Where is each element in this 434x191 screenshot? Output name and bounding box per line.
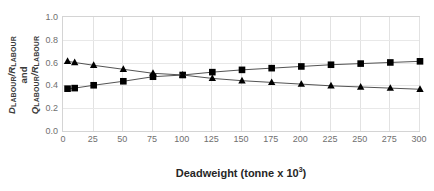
y-axis-tick-label: 1.0 — [34, 12, 58, 22]
data-point-triangle — [416, 85, 423, 92]
x-axis-tick-label: 100 — [174, 134, 189, 144]
x-axis-tick-label: 25 — [88, 134, 98, 144]
data-point-square — [268, 65, 275, 72]
x-axis-tick-label: 150 — [233, 134, 248, 144]
y-axis-label-sub-2: LABOUR — [10, 36, 17, 67]
x-axis-tick-label: 75 — [147, 134, 157, 144]
data-point-square — [64, 85, 71, 92]
series-svg — [63, 17, 421, 133]
y-axis-label-D: D — [6, 107, 17, 114]
y-axis-label-line-1: DLABOUR/RLABOUR — [6, 36, 18, 114]
data-point-square — [357, 60, 364, 67]
x-axis-tick-label: 200 — [293, 134, 308, 144]
data-point-triangle — [298, 80, 305, 87]
x-axis-tick-label: 0 — [60, 134, 65, 144]
series-line — [68, 61, 420, 89]
y-axis-ticks: 0.00.20.40.60.81.0 — [22, 0, 58, 191]
data-point-square — [239, 67, 246, 74]
y-axis-tick-label: 0.4 — [34, 80, 58, 90]
x-axis-tick-label: 275 — [382, 134, 397, 144]
y-axis-tick-label: 0.0 — [34, 126, 58, 136]
x-axis-tick-label: 300 — [411, 134, 426, 144]
y-axis-label-R1: R — [6, 67, 17, 74]
x-axis-tick-label: 125 — [204, 134, 219, 144]
data-point-triangle — [268, 78, 275, 85]
y-axis-tick-label: 0.6 — [34, 58, 58, 68]
data-point-square — [328, 61, 335, 68]
data-point-square — [298, 63, 305, 70]
data-point-triangle — [64, 57, 71, 64]
y-axis-tick-label: 0.8 — [34, 35, 58, 45]
x-axis-tick-label: 250 — [352, 134, 367, 144]
x-axis-tick-label: 175 — [263, 134, 278, 144]
data-point-square — [90, 82, 97, 89]
series-line — [68, 61, 420, 88]
data-point-square — [71, 85, 78, 92]
data-point-square — [417, 58, 424, 65]
x-axis-label-close: ) — [303, 167, 307, 179]
data-point-triangle — [357, 83, 364, 90]
y-axis-tick-label: 0.2 — [34, 103, 58, 113]
y-axis-label-sub-1: LABOUR — [10, 76, 17, 107]
x-axis-tick-label: 225 — [322, 134, 337, 144]
x-axis-label-text: Deadweight (tonne x 10 — [176, 167, 299, 179]
data-point-square — [120, 78, 127, 85]
x-axis-ticks: 0255075100125150175200225250275300 — [62, 134, 420, 150]
chart-figure: DLABOUR/RLABOUR and QLABOUR/RLABOUR 0.00… — [0, 0, 434, 191]
data-point-square — [387, 59, 394, 66]
x-axis-label: Deadweight (tonne x 103) — [62, 166, 420, 179]
data-layer — [63, 17, 419, 131]
x-axis-tick-label: 50 — [117, 134, 127, 144]
data-point-triangle — [327, 82, 334, 89]
plot-area — [62, 16, 420, 132]
data-point-triangle — [387, 84, 394, 91]
